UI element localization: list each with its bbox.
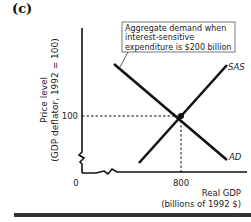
callout-line3: expenditure is $200 billion	[125, 43, 231, 52]
callout-line1: Aggregate demand when	[125, 24, 226, 33]
y-axis-label-line2: (GDP deflator, 1992 = 100)	[50, 38, 60, 161]
callout-line2: interest-sensitive	[125, 33, 194, 42]
callout-leader	[120, 52, 128, 67]
x-axis	[82, 169, 247, 174]
ad-curve	[114, 64, 227, 160]
y-axis	[79, 28, 84, 173]
bottom-rule	[14, 213, 251, 217]
x-tick-800: 800	[173, 178, 189, 188]
sas-label: SAS	[228, 62, 245, 72]
equilibrium-point	[178, 113, 184, 119]
ad-label: AD	[228, 152, 242, 162]
x-axis-label-line2: (billions of 1992 $)	[161, 199, 241, 209]
x-tick-0: 0	[73, 178, 78, 188]
x-axis-label-line1: Real GDP	[202, 188, 241, 198]
y-tick-100: 100	[62, 111, 78, 121]
y-axis-label-line1: Price level	[39, 77, 49, 123]
ad-sas-chart: Price level (GDP deflator, 1992 = 100) A…	[0, 0, 251, 222]
